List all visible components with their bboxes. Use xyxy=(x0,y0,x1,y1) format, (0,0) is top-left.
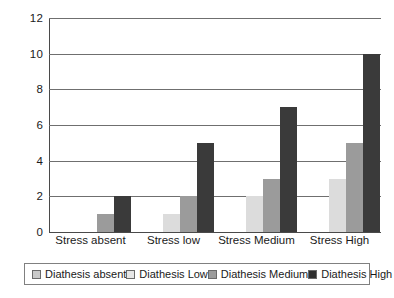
y-tick-label-6: 6 xyxy=(36,120,43,132)
legend-label: Diathesis Low xyxy=(139,269,207,280)
x-axis-label: Stress Medium xyxy=(215,234,298,247)
bar-group xyxy=(298,18,381,232)
legend-label: Diathesis absent xyxy=(45,269,126,280)
legend-label: Diathesis Medium xyxy=(221,269,308,280)
y-tick-label-12: 12 xyxy=(30,13,43,25)
bar xyxy=(246,196,263,232)
bar-group-bars xyxy=(49,18,132,232)
bar-group xyxy=(132,18,215,232)
bar-group-bars xyxy=(132,18,215,232)
bar-group-bars xyxy=(215,18,298,232)
x-axis-label: Stress absent xyxy=(49,234,132,247)
bar xyxy=(263,179,280,233)
legend-item[interactable]: Diathesis Medium xyxy=(208,269,308,280)
bar xyxy=(329,179,346,233)
chart-legend: Diathesis absentDiathesis LowDiathesis M… xyxy=(24,263,370,285)
legend-swatch-icon xyxy=(208,270,217,279)
bar xyxy=(180,196,197,232)
bar xyxy=(346,143,363,232)
y-tick-label-8: 8 xyxy=(36,85,43,97)
x-axis-label: Stress low xyxy=(132,234,215,247)
legend-label: Diathesis High xyxy=(321,269,392,280)
bar xyxy=(97,214,114,232)
y-tick-label-10: 10 xyxy=(30,49,43,61)
legend-swatch-icon xyxy=(308,270,317,279)
plot-area: 024681012 xyxy=(49,18,381,232)
legend-item[interactable]: Diathesis Low xyxy=(126,269,207,280)
bar xyxy=(114,196,131,232)
gridline-0: 0 xyxy=(49,232,381,233)
y-tick-label-0: 0 xyxy=(36,227,43,239)
bar-chart: 024681012 Stress absentStress lowStress … xyxy=(0,0,394,298)
x-axis-labels: Stress absentStress lowStress MediumStre… xyxy=(49,234,381,247)
bar xyxy=(197,143,214,232)
bar xyxy=(280,107,297,232)
bar-groups xyxy=(49,18,381,232)
legend-item[interactable]: Diathesis High xyxy=(308,269,392,280)
bar xyxy=(163,214,180,232)
y-tick-label-2: 2 xyxy=(36,192,43,204)
legend-swatch-icon xyxy=(126,270,135,279)
legend-item[interactable]: Diathesis absent xyxy=(32,269,126,280)
bar-group-bars xyxy=(298,18,381,232)
bar-group xyxy=(215,18,298,232)
y-tick-label-4: 4 xyxy=(36,156,43,168)
x-axis-label: Stress High xyxy=(298,234,381,247)
bar xyxy=(363,54,380,232)
legend-swatch-icon xyxy=(32,270,41,279)
bar-group xyxy=(49,18,132,232)
